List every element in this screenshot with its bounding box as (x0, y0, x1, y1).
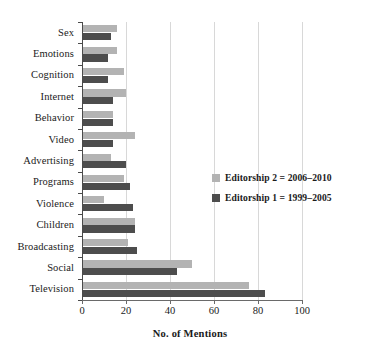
category-label: Video (0, 134, 74, 145)
category-label: Programs (0, 176, 74, 187)
x-axis-title: No. of Mentions (0, 328, 380, 339)
category-label: Children (0, 219, 74, 230)
bar-editorship-2 (82, 175, 124, 182)
bar-editorship-1 (82, 161, 126, 168)
legend-label-editorship-1: Editorship 1 = 1999–2005 (225, 192, 332, 203)
bar-editorship-1 (82, 33, 111, 40)
legend-label-editorship-2: Editorship 2 = 2006–2010 (225, 172, 332, 183)
bar-editorship-1 (82, 140, 113, 147)
bar-editorship-1 (82, 97, 113, 104)
x-axis-line (82, 300, 303, 301)
x-axis-tick (258, 300, 259, 304)
plot-area (82, 22, 302, 300)
legend-item: Editorship 2 = 2006–2010 (212, 172, 332, 183)
bar-editorship-2 (82, 89, 126, 96)
gridline (214, 22, 215, 300)
category-label: Television (0, 283, 74, 294)
legend-swatch-editorship-2 (212, 174, 220, 182)
bar-editorship-2 (82, 218, 135, 225)
bar-editorship-2 (82, 154, 111, 161)
category-label: Sex (0, 27, 74, 38)
bar-editorship-1 (82, 268, 177, 275)
bar-editorship-2 (82, 68, 124, 75)
legend-item: Editorship 1 = 1999–2005 (212, 192, 332, 203)
category-label: Emotions (0, 48, 74, 59)
x-axis-tick-label: 100 (287, 305, 317, 316)
gridline (258, 22, 259, 300)
gridline (170, 22, 171, 300)
x-axis-tick (170, 300, 171, 304)
bar-editorship-1 (82, 225, 135, 232)
category-label: Broadcasting (0, 241, 74, 252)
caption-sliver (0, 347, 380, 353)
x-axis-tick (302, 300, 303, 304)
bar-editorship-1 (82, 290, 265, 297)
bar-editorship-1 (82, 247, 137, 254)
y-axis-line (82, 22, 83, 301)
x-axis-tick (214, 300, 215, 304)
bar-chart-figure: SexEmotionsCognitionInternetBehaviorVide… (0, 0, 380, 353)
bar-editorship-2 (82, 47, 117, 54)
category-label: Social (0, 262, 74, 273)
x-axis-tick (82, 300, 83, 304)
bar-editorship-1 (82, 204, 133, 211)
gridline (302, 22, 303, 300)
bar-editorship-1 (82, 119, 113, 126)
category-label: Internet (0, 91, 74, 102)
category-label: Cognition (0, 69, 74, 80)
legend-swatch-editorship-1 (212, 194, 220, 202)
category-label: Behavior (0, 112, 74, 123)
bar-editorship-2 (82, 282, 249, 289)
bar-editorship-2 (82, 111, 113, 118)
category-label: Advertising (0, 155, 74, 166)
x-axis-tick-label: 0 (67, 305, 97, 316)
chart-legend: Editorship 2 = 2006–2010 Editorship 1 = … (212, 172, 332, 212)
bar-editorship-2 (82, 132, 135, 139)
bar-editorship-2 (82, 239, 128, 246)
x-axis-tick-label: 40 (155, 305, 185, 316)
gridline (126, 22, 127, 300)
bar-editorship-1 (82, 76, 108, 83)
category-label: Violence (0, 198, 74, 209)
bar-editorship-1 (82, 183, 130, 190)
bar-editorship-2 (82, 260, 192, 267)
x-axis-tick-label: 80 (243, 305, 273, 316)
bar-editorship-1 (82, 54, 108, 61)
x-axis-tick-label: 20 (111, 305, 141, 316)
bar-editorship-2 (82, 25, 117, 32)
x-axis-tick (126, 300, 127, 304)
bar-editorship-2 (82, 196, 104, 203)
x-axis-tick-label: 60 (199, 305, 229, 316)
